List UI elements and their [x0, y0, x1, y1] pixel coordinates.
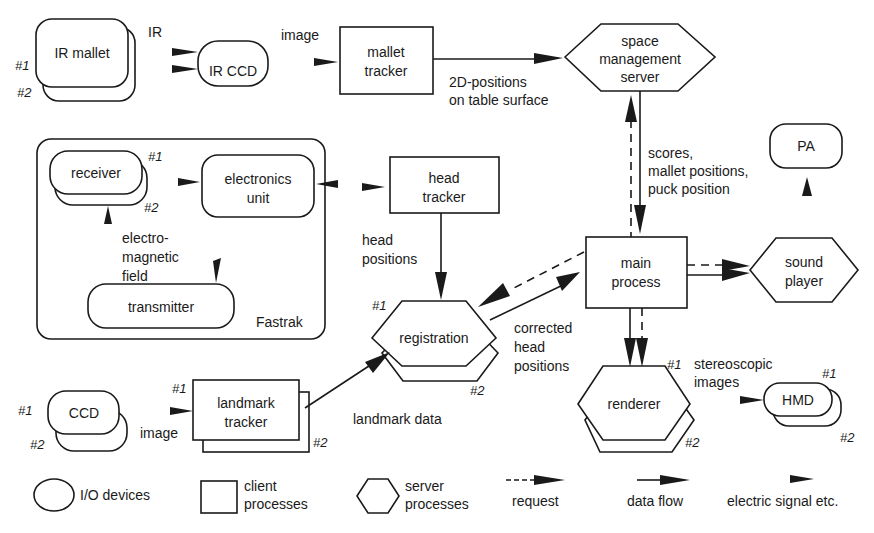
head-tracker-label-2: tracker: [423, 189, 466, 205]
legend-server-label-1: server: [405, 478, 444, 494]
renderer-num1: #1: [667, 357, 681, 372]
system-architecture-diagram: IR mallet #1 #2 IR IR CCD image mallet t…: [0, 0, 874, 533]
receiver-num2: #2: [144, 200, 159, 215]
hmd-num2: #2: [840, 430, 855, 445]
signal-arrow-icon: [740, 396, 764, 404]
landmark-tracker-node: landmark tracker #1 #2: [172, 380, 328, 452]
landmark-tracker-label-1: landmark: [217, 395, 276, 411]
head-pos-label-1: head: [362, 232, 393, 248]
receiver-num1: #1: [148, 149, 162, 164]
server-label-3: server: [621, 69, 660, 85]
ccd-num2: #2: [30, 437, 45, 452]
pa-label: PA: [797, 138, 815, 154]
data-flow-arrow-icon: [435, 272, 447, 300]
landmark-data-label: landmark data: [353, 411, 442, 427]
legend-server-shape: [357, 479, 399, 513]
signal-arrow-icon: [790, 475, 814, 483]
landmark-num1: #1: [172, 381, 186, 396]
registration-num1: #1: [372, 298, 386, 313]
sound-player-label-2: player: [785, 273, 823, 289]
em-label-2: magnetic: [122, 249, 179, 265]
ccd-label: CCD: [69, 405, 99, 421]
server-label-1: space: [621, 33, 659, 49]
main-process-label-1: main: [621, 255, 651, 271]
landmark-tracker-label-2: tracker: [225, 414, 268, 430]
signal-arrow-icon: [172, 48, 198, 56]
legend-io-shape: [34, 479, 74, 511]
signal-arrow-icon: [362, 183, 385, 191]
ir-mallet-num2: #2: [17, 85, 32, 100]
legend: I/O devices client processes server proc…: [34, 475, 838, 513]
pa-node: PA: [770, 124, 842, 168]
legend-io-label: I/O devices: [80, 487, 150, 503]
request-main-to-registration: [510, 252, 584, 290]
legend-client-label-2: processes: [244, 496, 308, 512]
transmitter-node: transmitter: [88, 284, 234, 328]
renderer-num2: #2: [685, 435, 700, 450]
legend-server-label-2: processes: [405, 496, 469, 512]
renderer-label: renderer: [608, 396, 661, 412]
ccd-node: CCD #1 #2: [18, 391, 127, 452]
legend-data-flow-label: data flow: [627, 493, 684, 509]
mallet-tracker-node: mallet tracker: [340, 27, 433, 94]
image-bottom-label: image: [140, 425, 178, 441]
mallet-tracker-label-2: tracker: [365, 63, 408, 79]
em-label-3: field: [122, 268, 148, 284]
registration-num2: #2: [470, 383, 485, 398]
stereo-label-2: images: [694, 374, 739, 390]
main-process-label-2: process: [611, 274, 660, 290]
main-process-node: main process: [586, 237, 687, 308]
fastrak-label: Fastrak: [256, 314, 304, 330]
sound-player-label-1: sound: [785, 254, 823, 270]
stereo-label-1: stereoscopic: [694, 356, 773, 372]
image-edge-label: image: [281, 27, 319, 43]
sound-player-node: sound player: [750, 238, 858, 302]
renderer-node: renderer #1 #2: [578, 357, 700, 452]
scores-label-3: puck position: [648, 181, 730, 197]
space-management-server-node: space management server: [565, 24, 715, 91]
registration-node: registration #1 #2: [372, 298, 498, 398]
ir-ccd-label: IR CCD: [209, 63, 257, 79]
corr-label-1: corrected: [514, 320, 572, 336]
legend-client-shape: [201, 481, 237, 513]
head-pos-label-2: positions: [362, 251, 417, 267]
transmitter-label: transmitter: [128, 299, 194, 315]
hmd-num1: #1: [822, 366, 836, 381]
corr-label-3: positions: [514, 358, 569, 374]
flow-landmark-data: [305, 362, 375, 408]
ir-ccd-node: IR CCD: [198, 41, 268, 86]
signal-arrow-icon: [170, 407, 193, 415]
pos2d-label-1: 2D-positions: [449, 74, 527, 90]
legend-electric-label: electric signal etc.: [727, 493, 838, 509]
signal-arrow-icon: [172, 65, 198, 73]
server-label-2: management: [599, 51, 681, 67]
electronics-label-2: unit: [247, 190, 270, 206]
ccd-num1: #1: [18, 403, 32, 418]
ir-mallet-node: IR mallet #1 #2: [15, 19, 135, 101]
registration-label: registration: [399, 330, 468, 346]
data-flow-arrow-icon: [534, 53, 563, 64]
request-arrow-icon: [534, 475, 565, 485]
ir-edge-label: IR: [148, 24, 162, 40]
request-arrow-icon: [478, 283, 510, 307]
signal-arrow-icon: [314, 58, 338, 66]
corr-label-2: head: [514, 339, 545, 355]
legend-client-label-1: client: [244, 478, 277, 494]
signal-arrow-icon: [802, 177, 812, 196]
data-flow-arrow-icon: [365, 352, 390, 373]
landmark-num2: #2: [313, 435, 328, 450]
ir-mallet-label: IR mallet: [54, 45, 109, 61]
hmd-label: HMD: [782, 392, 814, 408]
receiver-label: receiver: [71, 165, 121, 181]
head-tracker-label-1: head: [428, 170, 459, 186]
electronics-label-1: electronics: [225, 171, 292, 187]
pos2d-label-2: on table surface: [449, 92, 549, 108]
request-arrow-icon: [636, 338, 648, 367]
legend-request-label: request: [512, 493, 559, 509]
em-label-1: electro-: [122, 230, 169, 246]
electronics-unit-node: electronics unit: [202, 155, 314, 217]
hmd-node: HMD #1 #2: [764, 366, 855, 445]
data-flow-arrow-icon: [634, 205, 646, 234]
request-arrow-icon: [625, 95, 637, 122]
head-tracker-node: head tracker: [390, 157, 499, 213]
